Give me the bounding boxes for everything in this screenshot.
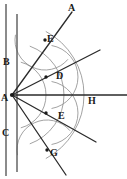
point-D	[44, 75, 47, 78]
ray-A-top	[12, 12, 72, 95]
label-A-top: A	[68, 3, 75, 13]
label-B: B	[3, 57, 10, 67]
label-C: C	[2, 128, 9, 138]
label-H: H	[88, 96, 96, 106]
label-E-upper: E	[47, 34, 54, 44]
point-G	[45, 148, 48, 151]
arc-lower-small	[17, 120, 70, 155]
label-E-lower: E	[58, 111, 65, 121]
label-D: D	[56, 71, 63, 81]
vertex-point-a	[10, 93, 14, 97]
geometry-canvas	[0, 0, 127, 179]
label-A-vertex: A	[1, 93, 8, 103]
point-E-lower	[44, 111, 47, 114]
geometry-figure: ABEDAHECG	[0, 0, 127, 179]
label-G: G	[50, 148, 58, 158]
rays-group	[12, 12, 127, 175]
